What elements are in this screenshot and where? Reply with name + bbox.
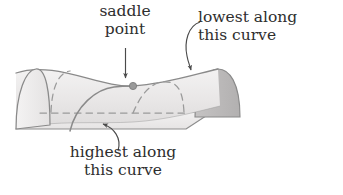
highest-curve-label-line2: this curve [38,162,208,180]
lowest-curve-label: lowest along this curve [198,9,338,44]
highest-curve-label: highest along this curve [38,144,208,179]
lowest-curve-label-line1: lowest along [198,9,338,27]
saddle-point-label-line1: saddle [79,3,171,21]
saddle-point-label-line2: point [79,21,171,39]
saddle-point-figure: saddle point lowest along this curve hig… [0,0,343,195]
saddle-point-dot [129,82,136,89]
highest-curve-label-line1: highest along [38,144,208,162]
lowest-curve-label-line2: this curve [198,27,338,45]
saddle-point-label: saddle point [79,3,171,38]
